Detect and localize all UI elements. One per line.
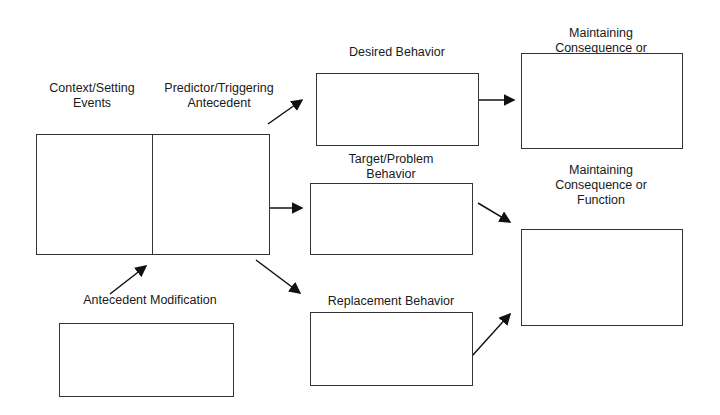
target-label: Target/Problem Behavior [310,152,472,182]
arrow-predictor-to-replacement [256,260,300,293]
maintaining-bottom-line2: Consequence or [520,178,682,193]
maintaining-bottom-line1: Maintaining [520,163,682,178]
predictor-label-line2: Antecedent [150,96,288,111]
antecedent-modification-box[interactable] [59,323,234,397]
arrow-replacement-to-function [472,314,510,356]
antecedent-box[interactable] [36,134,270,255]
maintaining-top-label: Maintaining Consequence or [520,26,682,56]
maintaining-top-box[interactable] [521,53,683,149]
predictor-label-line1: Predictor/Triggering [150,81,288,96]
arrow-modification-to-antecedent [110,266,146,294]
arrow-target-to-function [478,203,510,222]
replacement-label: Replacement Behavior [310,294,472,309]
maintaining-top-line1: Maintaining [520,26,682,41]
maintaining-bottom-line3: Function [520,193,682,208]
predictor-label: Predictor/Triggering Antecedent [150,81,288,111]
antecedent-divider [152,135,153,254]
target-label-line1: Target/Problem [310,152,472,167]
context-label-line1: Context/Setting [30,81,154,96]
antecedent-modification-label: Antecedent Modification [60,293,240,308]
target-box[interactable] [310,183,473,255]
context-label-line2: Events [30,96,154,111]
target-label-line2: Behavior [310,167,472,182]
maintaining-bottom-label: Maintaining Consequence or Function [520,163,682,208]
context-label: Context/Setting Events [30,81,154,111]
desired-box[interactable] [316,73,479,146]
maintaining-bottom-box[interactable] [521,229,683,326]
desired-label: Desired Behavior [316,45,478,60]
replacement-box[interactable] [310,312,473,386]
